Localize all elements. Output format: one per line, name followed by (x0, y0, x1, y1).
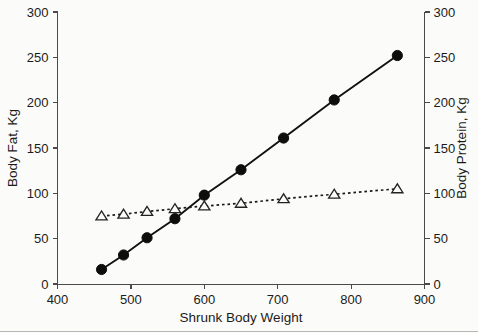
x-axis-ticks: 400500600700800900 (47, 284, 436, 307)
y-ticklabel-right: 0 (434, 277, 441, 292)
y-axis-left-ticks: 050100150200250300 (27, 5, 58, 292)
y-ticklabel-left: 0 (41, 277, 48, 292)
x-ticklabel: 400 (47, 292, 69, 307)
y-ticklabel-right: 200 (434, 95, 456, 110)
y-ticklabel-left: 300 (27, 5, 49, 20)
y-ticklabel-right: 150 (434, 141, 456, 156)
data-point-marker (329, 95, 339, 105)
data-point-marker (392, 184, 403, 193)
x-ticklabel: 500 (120, 292, 142, 307)
x-ticklabel: 900 (414, 292, 436, 307)
data-point-marker (199, 190, 209, 200)
axes-group (58, 12, 425, 285)
y-ticklabel-right: 50 (434, 231, 448, 246)
x-ticklabel: 700 (267, 292, 289, 307)
data-point-marker (142, 233, 152, 243)
y-ticklabel-left: 250 (27, 50, 49, 65)
data-point-marker (118, 250, 128, 260)
data-point-marker (170, 214, 180, 224)
y-axis-left-title: Body Fat, Kg (5, 109, 20, 187)
y-axis-right-title: Body Protein, Kg (454, 97, 469, 198)
y-ticklabel-right: 300 (434, 5, 456, 20)
y-ticklabel-right: 100 (434, 186, 456, 201)
data-point-marker (96, 264, 106, 274)
data-point-marker (118, 209, 129, 218)
data-point-marker (278, 194, 289, 203)
data-point-marker (96, 211, 107, 220)
data-point-marker (236, 165, 246, 175)
y-ticklabel-right: 250 (434, 50, 456, 65)
dual-axis-line-chart: 050100150200250300 050100150200250300 40… (0, 0, 478, 333)
data-point-marker (278, 133, 288, 143)
y-ticklabel-left: 150 (27, 141, 49, 156)
x-axis-title: Shrunk Body Weight (180, 310, 303, 325)
x-ticklabel: 600 (193, 292, 215, 307)
data-point-marker (199, 201, 210, 210)
data-point-marker (392, 50, 402, 60)
chart-figure: 050100150200250300 050100150200250300 40… (0, 0, 478, 333)
x-ticklabel: 800 (340, 292, 362, 307)
y-axis-right-ticks: 050100150200250300 (425, 5, 456, 292)
data-series-layer (96, 50, 403, 274)
y-ticklabel-left: 200 (27, 95, 49, 110)
y-ticklabel-left: 100 (27, 186, 49, 201)
y-ticklabel-left: 50 (34, 231, 48, 246)
